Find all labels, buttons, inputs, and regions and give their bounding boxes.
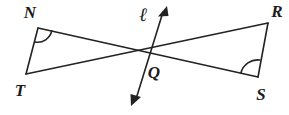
vertex-label-N: N [23, 3, 37, 22]
vertex-label-T: T [15, 81, 26, 100]
segment-RS [258, 23, 268, 77]
line-l-arrowhead-bottom [131, 94, 142, 106]
segment-NT [26, 28, 38, 74]
line-l-arrowhead-top [158, 6, 169, 17]
geometry-canvas: N T R S Q ℓ [0, 0, 289, 115]
vertex-label-Q: Q [148, 63, 160, 82]
vertex-label-S: S [256, 85, 265, 104]
angle-mark-S [241, 60, 260, 73]
vertex-label-R: R [270, 2, 282, 21]
line-label-l: ℓ [139, 4, 147, 25]
geometry-figure: N T R S Q ℓ [0, 0, 289, 115]
